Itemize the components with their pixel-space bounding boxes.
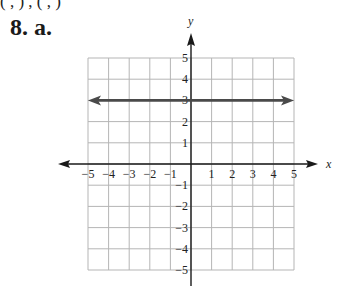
x-tick-label: 4	[270, 167, 276, 181]
x-tick-label: 5	[291, 167, 297, 181]
x-axis-label: x	[325, 157, 332, 171]
y-tick-label: 4	[182, 72, 188, 86]
y-tick-label: −3	[175, 221, 188, 235]
x-tick-label: −5	[82, 167, 95, 181]
y-tick-label: −1	[175, 178, 188, 192]
x-tick-label: 3	[250, 167, 256, 181]
y-tick-label: 1	[182, 136, 188, 150]
y-tick-label: −4	[175, 242, 188, 256]
y-tick-label: 5	[182, 51, 188, 65]
y-tick-label: 2	[182, 115, 188, 129]
x-tick-label: −4	[102, 167, 115, 181]
x-tick-label: −3	[123, 167, 136, 181]
x-tick-label: −2	[143, 167, 156, 181]
coordinate-plane: −5−4−3−2−11234554321−1−2−3−4−5 x y	[0, 0, 351, 286]
y-tick-label: −2	[175, 199, 188, 213]
axes	[58, 33, 318, 286]
x-tick-label: 1	[209, 167, 215, 181]
y-tick-label: −5	[175, 263, 188, 277]
y-axis-label: y	[187, 14, 194, 28]
x-tick-label: 2	[229, 167, 235, 181]
